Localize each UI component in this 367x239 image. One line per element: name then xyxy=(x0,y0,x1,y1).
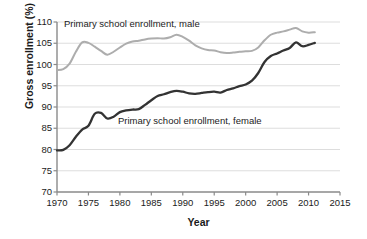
x-tick-labels: 1970197519801985199019952000200520102015 xyxy=(0,197,367,213)
series-line-male xyxy=(57,28,315,70)
y-tick-label: 100 xyxy=(26,60,52,69)
chart-container: Gross enrollment (%) 7075808590951001051… xyxy=(0,0,367,239)
series-label-male: Primary school enrollment, male xyxy=(64,18,200,29)
x-tick-label: 2015 xyxy=(320,197,360,208)
series-label-female: Primary school enrollment, female xyxy=(118,115,262,126)
x-axis-title: Year xyxy=(57,216,340,228)
y-tick-label: 80 xyxy=(26,145,52,154)
y-tick-label: 75 xyxy=(26,166,52,175)
y-tick-label: 70 xyxy=(26,187,52,196)
y-tick-label: 90 xyxy=(26,102,52,111)
y-tick-label: 110 xyxy=(26,17,52,26)
y-tick-label: 85 xyxy=(26,123,52,132)
series-line-female xyxy=(57,42,315,150)
y-tick-label: 95 xyxy=(26,81,52,90)
y-tick-label: 105 xyxy=(26,38,52,47)
